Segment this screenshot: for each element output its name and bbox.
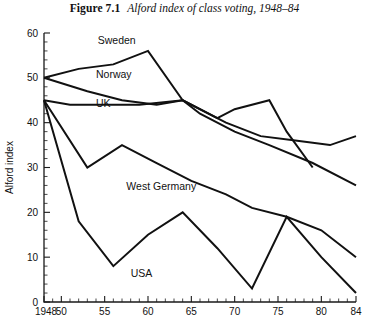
y-tick-label: 60 bbox=[27, 28, 39, 39]
x-tick-label: 60 bbox=[142, 306, 154, 317]
series-line-norway bbox=[44, 78, 356, 145]
x-tick-label: 1948 bbox=[35, 306, 58, 317]
x-tick-label: 80 bbox=[316, 306, 328, 317]
figure-container: Figure 7.1Alford index of class voting, … bbox=[0, 0, 369, 321]
y-axis-title: Alford index bbox=[4, 141, 15, 194]
series-label-norway: Norway bbox=[96, 68, 132, 80]
series-line-usa bbox=[44, 100, 356, 293]
chart-axes bbox=[44, 33, 356, 302]
x-tick-label: 70 bbox=[229, 306, 241, 317]
chart-ticks bbox=[44, 33, 356, 302]
series-line-sweden bbox=[44, 51, 313, 168]
series-label-uk: UK bbox=[96, 97, 111, 109]
y-tick-label: 20 bbox=[27, 207, 39, 218]
series-label-sweden: Sweden bbox=[98, 34, 136, 46]
series-line-west-germany bbox=[44, 100, 356, 257]
x-tick-label: 55 bbox=[99, 306, 111, 317]
x-tick-label: 50 bbox=[56, 306, 68, 317]
series-label-usa: USA bbox=[131, 267, 153, 279]
chart-tick-labels: 010203040506019485055606570758084 bbox=[27, 28, 362, 317]
chart-series-lines bbox=[44, 51, 356, 293]
y-tick-label: 40 bbox=[27, 117, 39, 128]
y-axis-title-text: Alford index bbox=[4, 141, 15, 194]
x-tick-label: 84 bbox=[350, 306, 362, 317]
y-tick-label: 50 bbox=[27, 72, 39, 83]
y-tick-label: 30 bbox=[27, 162, 39, 173]
x-tick-label: 75 bbox=[272, 306, 284, 317]
line-chart: 010203040506019485055606570758084 Sweden… bbox=[0, 0, 369, 321]
y-tick-label: 10 bbox=[27, 252, 39, 263]
series-label-west-germany: West Germany bbox=[126, 180, 197, 192]
x-tick-label: 65 bbox=[186, 306, 198, 317]
